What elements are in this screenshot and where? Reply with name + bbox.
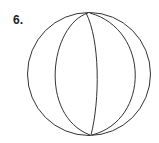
sphere-drawing [0,0,159,143]
sphere-outline [28,13,151,136]
meridian-center-arc [86,13,97,135]
meridian-left-arc [55,13,90,135]
